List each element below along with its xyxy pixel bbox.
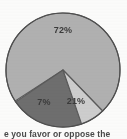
pie-chart-svg: 72% 21% 7% e you favor or oppose the bbox=[0, 0, 127, 139]
figure-caption: e you favor or oppose the bbox=[4, 129, 111, 139]
pie-slice-label-72: 72% bbox=[54, 25, 73, 35]
pie-slice-label-21: 21% bbox=[67, 96, 86, 106]
pie-chart-figure: 72% 21% 7% e you favor or oppose the bbox=[0, 0, 127, 139]
pie-slice-label-7: 7% bbox=[37, 97, 50, 107]
